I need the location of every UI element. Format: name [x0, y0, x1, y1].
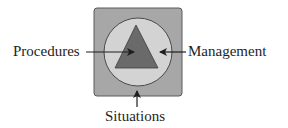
label-situations: Situations — [105, 109, 165, 124]
label-procedures: Procedures — [13, 44, 80, 59]
label-management: Management — [188, 44, 266, 59]
